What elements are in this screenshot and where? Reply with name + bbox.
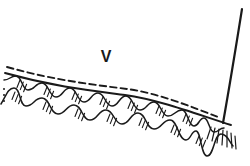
vertical-wall-line: [223, 9, 242, 123]
velocity-label: V: [101, 48, 112, 65]
diagram-svg: V: [0, 0, 250, 166]
hatch-marks: [12, 80, 236, 149]
figure-canvas: V: [0, 0, 250, 166]
